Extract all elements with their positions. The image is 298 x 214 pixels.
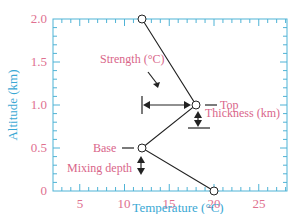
strength-arrow-left-head [143,101,150,109]
x-axis-label: Temperature (°C) [132,200,223,214]
y-tick-2.0: 2.0 [31,11,47,26]
y-tick-labels: 0 0.5 1.0 1.5 2.0 [31,11,47,198]
strength-label: Strength (°C) [100,52,164,66]
mixing-depth-arrow-up-head [137,156,145,163]
strength-arrow-right-head [184,101,191,109]
y-axis-label: Altitude (km) [5,69,20,140]
x-tick-25: 25 [253,196,266,211]
profile-point-inversion-base [138,144,146,152]
x-tick-5: 5 [77,196,84,211]
y-tick-1.5: 1.5 [31,54,47,69]
y-tick-0: 0 [41,183,48,198]
y-tick-0.5: 0.5 [31,140,47,155]
profile-point-inversion-top [192,101,200,109]
profile-point-top-of-chart [138,15,146,23]
profile-point-surface [210,187,218,195]
inversion-chart: 0 0.5 1.0 1.5 2.0 5 10 15 20 25 Temperat… [0,0,298,214]
mixing-depth-label: Mixing depth [67,161,132,175]
mixing-depth-arrow-down-head [137,168,145,175]
y-tick-1.0: 1.0 [31,97,47,112]
thickness-label: Thickness (km) [205,106,280,120]
base-label: Base [93,141,116,155]
thickness-arrow-up-head [194,111,202,118]
x-tick-10: 10 [118,196,131,211]
thickness-arrow-down-head [194,120,202,127]
